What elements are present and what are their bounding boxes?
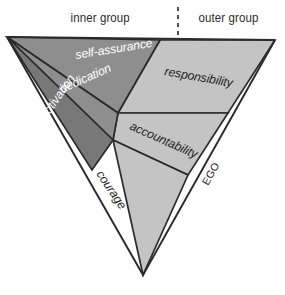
outer-group-header-label: outer group [199,11,259,25]
inner-group-header-label: inner group [71,11,130,25]
diagram-root: inner group outer group self-assurance d… [0,0,285,295]
triangle-diagram-svg: self-assurance dedication motivation res… [0,0,285,295]
label-ego-axis: EGO [199,160,221,187]
